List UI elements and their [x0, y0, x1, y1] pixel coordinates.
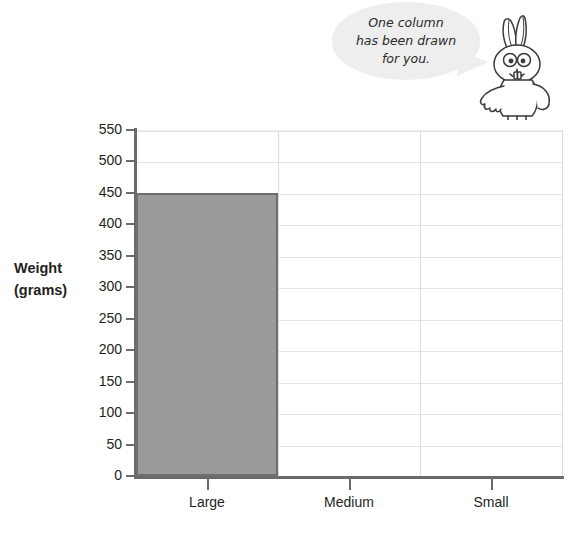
y-axis-tick — [126, 444, 135, 446]
y-axis-tick-label: 300 — [70, 278, 122, 294]
category-divider — [420, 131, 421, 477]
y-axis-tick-label: 200 — [70, 341, 122, 357]
gridline — [136, 131, 562, 132]
y-axis-tick-label: 150 — [70, 373, 122, 389]
y-axis-tick-label: 450 — [70, 184, 122, 200]
speech-bubble-line-2: has been drawn — [356, 33, 456, 48]
y-axis-tick-label: 250 — [70, 310, 122, 326]
y-axis-tick — [126, 381, 135, 383]
gridline — [136, 162, 562, 163]
y-axis-tick-labels: 050100150200250300350400450500550 — [62, 0, 122, 538]
y-axis-tick — [126, 349, 135, 351]
y-axis-tick — [126, 412, 135, 414]
y-axis-tick-label: 350 — [70, 247, 122, 263]
y-axis-tick-label: 100 — [70, 404, 122, 420]
y-axis-tick — [126, 286, 135, 288]
y-axis-tick-label: 0 — [70, 467, 122, 483]
speech-bubble-text: One column has been drawn for you. — [341, 14, 471, 68]
y-axis-tick — [126, 475, 135, 477]
y-axis-tick-label: 550 — [70, 121, 122, 137]
y-axis-tick — [126, 223, 135, 225]
speech-bubble-line-1: One column — [368, 15, 443, 30]
bar-column[interactable] — [136, 193, 278, 476]
x-axis-category-label: Medium — [278, 494, 420, 510]
speech-bubble-line-3: for you. — [382, 51, 430, 66]
x-axis-tick — [207, 479, 209, 490]
y-axis-tick — [126, 160, 135, 162]
y-axis-tick-label: 500 — [70, 152, 122, 168]
y-axis-tick-label: 400 — [70, 215, 122, 231]
y-axis-tick — [126, 129, 135, 131]
y-axis-tick-label: 50 — [70, 436, 122, 452]
y-axis-tick — [126, 192, 135, 194]
x-axis-category-label: Large — [136, 494, 278, 510]
category-divider — [278, 131, 279, 477]
x-axis-tick — [491, 479, 493, 490]
x-axis-tick — [349, 479, 351, 490]
rabbit-icon — [470, 8, 582, 120]
x-axis-category-label: Small — [420, 494, 562, 510]
y-axis-tick — [126, 255, 135, 257]
worksheet-canvas: One column has been drawn for you. — [0, 0, 585, 538]
y-axis-tick — [126, 318, 135, 320]
